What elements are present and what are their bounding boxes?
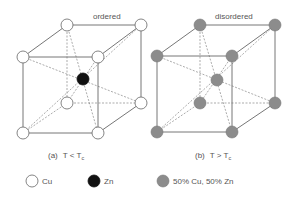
cu-atom [92, 127, 104, 139]
cu-atom [135, 19, 147, 31]
caption-ordered: (a) T < Tc [48, 151, 84, 161]
bcc-ordering-diagram: ordered [0, 0, 296, 197]
mixed-atom [226, 126, 238, 138]
legend-item-mixed: 50% Cu, 50% Zn [157, 175, 233, 187]
cu-swatch [26, 175, 38, 187]
legend-label-cu: Cu [42, 177, 52, 186]
legend: Cu Zn 50% Cu, 50% Zn [26, 175, 233, 187]
cu-atom [61, 19, 73, 31]
mixed-atom [269, 19, 281, 31]
legend-item-cu: Cu [26, 175, 52, 187]
mixed-atom [269, 97, 281, 109]
mixed-atom [226, 50, 238, 62]
legend-label-zn: Zn [104, 177, 113, 186]
mixed-swatch [157, 175, 169, 187]
cu-atom [17, 51, 29, 63]
legend-item-zn: Zn [88, 175, 113, 187]
mixed-atom-center [211, 74, 223, 86]
panel-title-disordered: disordered [215, 12, 253, 21]
mixed-atom [194, 19, 206, 31]
legend-label-mixed: 50% Cu, 50% Zn [173, 177, 233, 186]
cu-atom [92, 51, 104, 63]
zn-swatch [88, 175, 100, 187]
cu-atom [135, 97, 147, 109]
caption-disordered: (b) T > Tc [195, 151, 231, 161]
panel-ordered: ordered [17, 12, 147, 161]
panel-disordered: disordered [151, 12, 281, 161]
zn-atom-center [77, 73, 89, 85]
cu-atom [17, 127, 29, 139]
mixed-atom [194, 97, 206, 109]
mixed-atom [151, 50, 163, 62]
cu-atom [61, 97, 73, 109]
mixed-atom [151, 126, 163, 138]
panel-title-ordered: ordered [93, 12, 121, 21]
